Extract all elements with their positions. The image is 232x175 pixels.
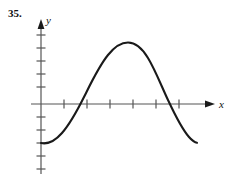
x-axis-arrowhead bbox=[205, 101, 215, 108]
curve-path bbox=[41, 43, 197, 144]
x-axis-label: x bbox=[218, 98, 224, 110]
graph-svg: x y bbox=[0, 0, 232, 175]
y-axis-label: y bbox=[45, 14, 51, 26]
y-axis-arrowhead bbox=[38, 19, 45, 29]
figure-container: 35. bbox=[0, 0, 232, 175]
